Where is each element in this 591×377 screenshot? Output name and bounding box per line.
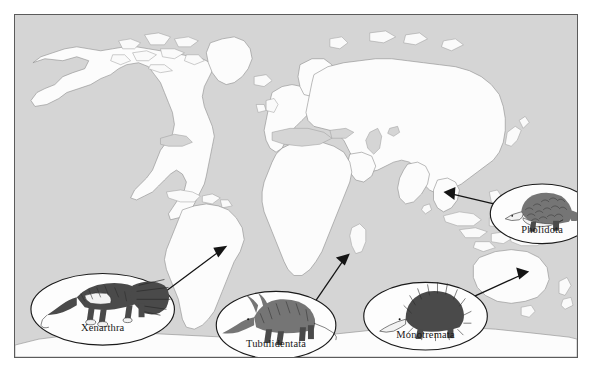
- callout-label-monotremata: Monotremata: [396, 329, 455, 340]
- callout-tubulidentata[interactable]: Tubulidentata: [216, 291, 336, 357]
- callout-monotremata[interactable]: Monotremata: [364, 282, 488, 350]
- callout-xenarthra[interactable]: Xenarthra: [31, 273, 174, 345]
- callout-label-xenarthra: Xenarthra: [81, 322, 125, 333]
- world-map-panel: Xenarthra: [14, 14, 578, 358]
- callout-label-pholidota: Pholidota: [521, 224, 563, 235]
- callout-pholidota[interactable]: Pholidota: [490, 184, 577, 244]
- callout-layer: Xenarthra: [15, 15, 577, 357]
- callout-label-tubulidentata: Tubulidentata: [246, 338, 306, 349]
- figure-canvas: Xenarthra: [0, 0, 591, 377]
